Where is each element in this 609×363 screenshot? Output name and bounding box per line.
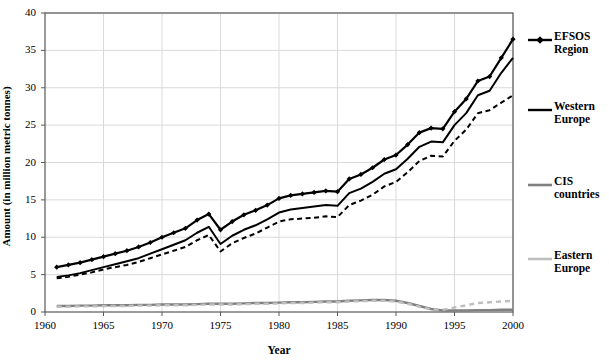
legend-label: EFSOSRegion: [554, 30, 609, 55]
legend-label: CIScountries: [554, 175, 609, 200]
legend-label-line2: Europe: [554, 113, 609, 126]
legend-label-line2: Region: [554, 43, 609, 56]
legend-label-line2: countries: [554, 188, 609, 201]
series-marker-0: [78, 260, 83, 265]
legend-label: WesternEurope: [554, 100, 609, 125]
series-marker-0: [323, 188, 328, 193]
series-line-1: [57, 58, 513, 277]
series-marker-0: [54, 265, 59, 270]
plot-area: [0, 0, 609, 363]
series-marker-0: [312, 190, 317, 195]
series-marker-0: [66, 262, 71, 267]
series-marker-0: [288, 193, 293, 198]
series-marker-0: [101, 254, 106, 259]
legend-swatch-line: [527, 252, 553, 266]
series-marker-0: [89, 257, 94, 262]
chart-legend: EFSOSRegionWesternEuropeCIScountriesEast…: [527, 0, 609, 363]
legend-label-line1: EFSOS: [554, 30, 609, 43]
chart-figure: Amount (in million metric tonnes) Year 0…: [0, 0, 609, 363]
series-marker-0: [124, 248, 129, 253]
legend-label-line2: Europe: [554, 262, 609, 275]
legend-label-line1: Eastern: [554, 249, 609, 262]
series-marker-0: [113, 251, 118, 256]
series-line-0: [57, 39, 513, 267]
legend-swatch-line: [527, 103, 553, 117]
series-marker-0: [300, 191, 305, 196]
legend-label-line1: CIS: [554, 175, 609, 188]
legend-swatch-diamond: [527, 33, 553, 47]
legend-swatch-line: [527, 178, 553, 192]
legend-label-line1: Western: [554, 100, 609, 113]
legend-label: EasternEurope: [554, 249, 609, 274]
